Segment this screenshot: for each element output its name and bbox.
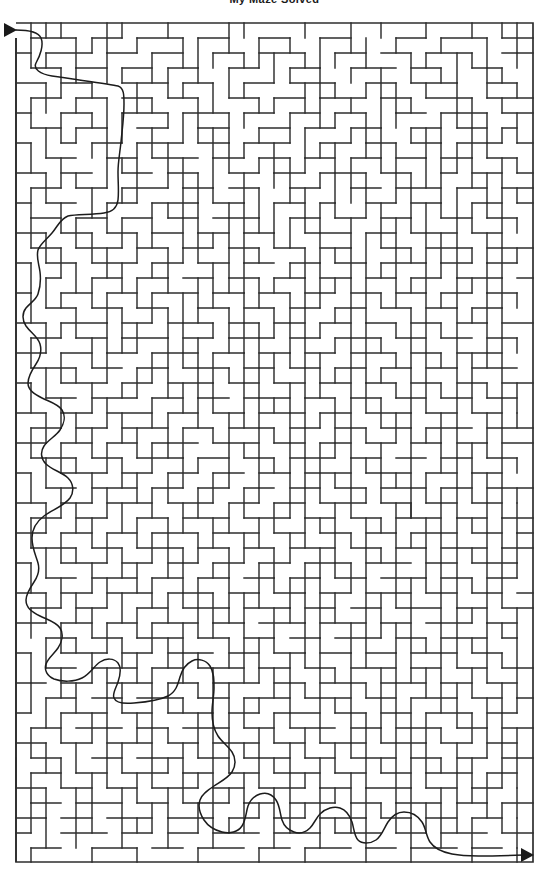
end-arrow [521, 848, 534, 862]
start-arrow [4, 23, 17, 37]
maze-page: My Maze Solved [0, 0, 549, 873]
maze-canvas [0, 0, 549, 873]
maze-wall-group [16, 23, 533, 862]
